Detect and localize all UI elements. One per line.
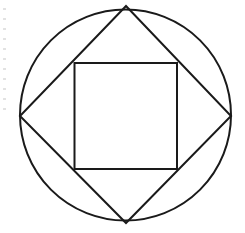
outer-circle	[20, 10, 231, 221]
diagram-svg	[0, 0, 245, 233]
geometry-diagram	[0, 0, 245, 233]
scan-margin-artifact	[3, 8, 6, 118]
inner-square	[75, 63, 178, 169]
